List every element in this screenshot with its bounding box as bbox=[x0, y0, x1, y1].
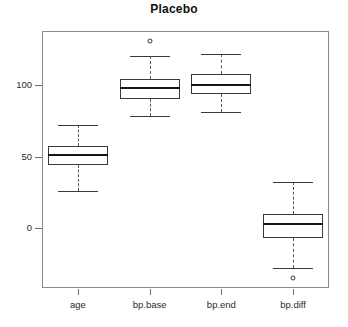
outlier-bp.base-0 bbox=[147, 38, 152, 43]
whisker-upper-age bbox=[78, 125, 79, 146]
x-axis-tick-bp.base bbox=[150, 289, 151, 295]
whisker-cap-lower-bp.diff bbox=[273, 268, 313, 269]
x-axis-tick-age bbox=[78, 289, 79, 295]
whisker-upper-bp.base bbox=[150, 56, 151, 79]
boxplot-figure: Placebo 050100agebp.basebp.endbp.diff bbox=[0, 0, 348, 327]
y-axis-label-0: 0 bbox=[0, 222, 32, 233]
whisker-lower-bp.diff bbox=[293, 238, 294, 268]
x-axis-label-age: age bbox=[70, 299, 86, 310]
box-bp.diff bbox=[263, 214, 323, 238]
y-axis-label-50: 50 bbox=[0, 151, 32, 162]
median-line-age bbox=[48, 154, 108, 156]
x-axis-label-bp.diff: bp.diff bbox=[280, 299, 306, 310]
whisker-cap-upper-bp.diff bbox=[273, 182, 313, 183]
box-bp.base bbox=[120, 79, 180, 99]
whisker-cap-upper-bp.end bbox=[201, 54, 241, 55]
whisker-cap-upper-bp.base bbox=[130, 56, 170, 57]
whisker-upper-bp.end bbox=[221, 54, 222, 74]
median-line-bp.end bbox=[191, 84, 251, 86]
x-axis-tick-bp.end bbox=[221, 289, 222, 295]
y-axis-tick-50 bbox=[35, 157, 42, 158]
x-axis-label-bp.end: bp.end bbox=[207, 299, 236, 310]
y-axis-tick-100 bbox=[35, 85, 42, 86]
median-line-bp.diff bbox=[263, 223, 323, 225]
x-axis-tick-bp.diff bbox=[293, 289, 294, 295]
x-axis-label-bp.base: bp.base bbox=[133, 299, 167, 310]
whisker-cap-lower-bp.end bbox=[201, 112, 241, 113]
whisker-lower-age bbox=[78, 165, 79, 191]
whisker-cap-lower-age bbox=[58, 191, 98, 192]
whisker-lower-bp.end bbox=[221, 94, 222, 113]
whisker-lower-bp.base bbox=[150, 99, 151, 116]
whisker-cap-lower-bp.base bbox=[130, 116, 170, 117]
chart-title: Placebo bbox=[0, 2, 348, 16]
median-line-bp.base bbox=[120, 87, 180, 89]
whisker-upper-bp.diff bbox=[293, 182, 294, 213]
y-axis-tick-0 bbox=[35, 228, 42, 229]
y-axis-label-100: 100 bbox=[0, 79, 32, 90]
outlier-bp.diff-0 bbox=[291, 276, 296, 281]
whisker-cap-upper-age bbox=[58, 125, 98, 126]
